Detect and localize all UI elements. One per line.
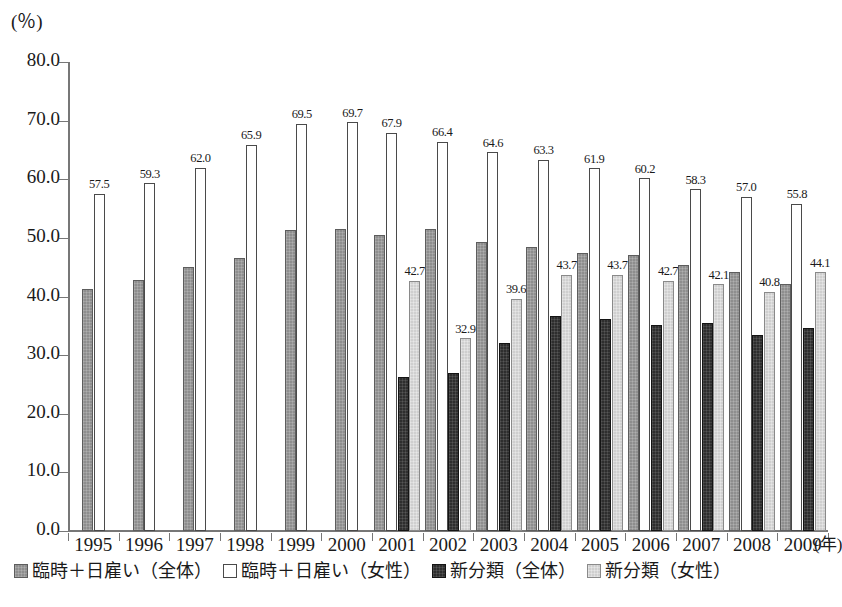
bar-group: 63.343.7: [524, 62, 575, 531]
bar-group: 64.639.6: [473, 62, 524, 531]
bar: [511, 299, 522, 531]
figure-caption: [0, 596, 836, 607]
x-axis-category-label: 2005: [575, 534, 626, 556]
bar: [628, 255, 639, 531]
legend-label: 新分類（女性）: [605, 561, 731, 581]
legend-label: 新分類（全体）: [450, 561, 576, 581]
bar: [448, 373, 459, 531]
legend-item: 臨時＋日雇い（女性）: [223, 561, 421, 581]
bar: [713, 284, 724, 531]
bar: [476, 242, 487, 531]
bar-value-label: 66.4: [425, 126, 459, 139]
x-axis-category-label: 2002: [423, 534, 474, 556]
bar: [612, 275, 623, 531]
x-axis-category-label: 1995: [68, 534, 119, 556]
bar: [550, 316, 561, 531]
bar: [460, 338, 471, 531]
bar: [409, 281, 420, 531]
bar: [780, 284, 791, 531]
bar: [538, 160, 549, 531]
bar: [144, 183, 155, 531]
y-tick-label: 30.0: [2, 343, 60, 362]
y-tick-label: 70.0: [2, 109, 60, 128]
bar: [764, 292, 775, 531]
bar: [561, 275, 572, 531]
x-axis-category-label: 2001: [372, 534, 423, 556]
bar-value-label: 65.9: [234, 129, 268, 142]
bar-group: 55.844.1: [777, 62, 828, 531]
x-axis-category-label: 2007: [676, 534, 727, 556]
bar: [702, 323, 713, 531]
bar: [678, 265, 689, 531]
bar-group: 67.942.7: [372, 62, 423, 531]
legend-swatch-icon: [432, 564, 446, 578]
x-axis-category-label: 2006: [625, 534, 676, 556]
bar: [487, 152, 498, 531]
y-tick-mark: [59, 62, 68, 63]
bar-group: 60.242.7: [625, 62, 676, 531]
bar: [437, 142, 448, 531]
y-tick-mark: [59, 414, 68, 415]
bar-group: 57.5: [68, 62, 119, 531]
bar: [195, 168, 206, 531]
bar: [234, 258, 245, 531]
y-tick-mark: [59, 179, 68, 180]
bar-group: 61.943.7: [575, 62, 626, 531]
y-tick-label: 60.0: [2, 167, 60, 186]
bar: [651, 325, 662, 531]
bar-value-label: 64.6: [476, 137, 510, 150]
bar: [183, 267, 194, 531]
y-tick-mark: [59, 472, 68, 473]
bar-group: 62.0: [169, 62, 220, 531]
bar: [600, 319, 611, 531]
bar-value-label: 69.5: [285, 108, 319, 121]
y-tick-label: 0.0: [2, 519, 60, 538]
bar-value-label: 58.3: [679, 174, 713, 187]
y-axis-unit-label: (％): [11, 6, 43, 33]
bar: [589, 168, 600, 531]
bar-group: 59.3: [119, 62, 170, 531]
bar: [386, 133, 397, 531]
bar-group: 65.9: [220, 62, 271, 531]
x-axis-category-label: 1998: [220, 534, 271, 556]
bar: [690, 189, 701, 531]
bar-value-label: 57.5: [82, 178, 116, 191]
plot-area: 0.010.020.030.040.050.060.070.080.057.55…: [68, 62, 828, 531]
y-tick-mark: [59, 297, 68, 298]
y-tick-mark: [59, 531, 68, 532]
bar-value-label: 60.2: [628, 163, 662, 176]
bar-value-label: 61.9: [577, 153, 611, 166]
legend-item: 臨時＋日雇い（全体）: [14, 561, 212, 581]
bar: [347, 122, 358, 531]
bar-group: 69.7: [321, 62, 372, 531]
bar: [296, 124, 307, 531]
bar-group: 57.040.8: [727, 62, 778, 531]
bar: [663, 281, 674, 531]
bar: [335, 229, 346, 532]
bar-group: 58.342.1: [676, 62, 727, 531]
x-axis-category-label: 1996: [119, 534, 170, 556]
bar: [94, 194, 105, 531]
y-tick-mark: [59, 238, 68, 239]
bar: [499, 343, 510, 531]
bar-group: 66.432.9: [423, 62, 474, 531]
bar: [526, 247, 537, 531]
x-axis-category-label: 2000: [321, 534, 372, 556]
legend-item: 新分類（全体）: [432, 561, 576, 581]
x-axis-unit-label: (年): [814, 534, 842, 556]
legend-swatch-icon: [14, 564, 28, 578]
bar: [398, 377, 409, 531]
bar: [425, 229, 436, 531]
y-tick-mark: [59, 355, 68, 356]
x-axis-category-label: 1999: [271, 534, 322, 556]
bar: [246, 145, 257, 531]
bar: [285, 230, 296, 531]
bar-value-label: 69.7: [335, 107, 369, 120]
bar: [791, 204, 802, 531]
chart-legend: 臨時＋日雇い（全体）臨時＋日雇い（女性）新分類（全体）新分類（女性）: [14, 559, 826, 583]
bar-value-label: 44.1: [803, 257, 837, 270]
x-axis-category-label: 1997: [169, 534, 220, 556]
bar: [752, 335, 763, 531]
bar-value-label: 67.9: [375, 117, 409, 130]
